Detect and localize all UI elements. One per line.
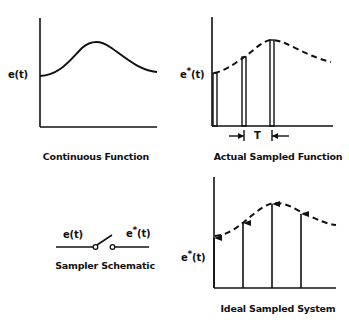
- ylabel-star: *: [188, 249, 193, 259]
- sampler-output-label: e*(t): [126, 228, 150, 239]
- ylabel-base: e: [180, 69, 187, 80]
- ideal-sampled-ylabel: e*(t): [181, 252, 205, 263]
- ideal-sampled-caption: Ideal Sampled System: [220, 303, 335, 314]
- sampler-caption: Sampler Schematic: [55, 260, 155, 271]
- ylabel-star: *: [187, 66, 192, 76]
- ylabel-arg: (t): [192, 252, 205, 263]
- continuous-curve: [40, 42, 157, 76]
- continuous-ylabel: e(t): [8, 69, 28, 80]
- ideal-sampled-plot: [214, 177, 336, 288]
- sampler-input-label: e(t): [63, 229, 83, 240]
- ylabel-base: e: [181, 252, 188, 263]
- period-label: T: [254, 130, 261, 141]
- switch-contact-right: [110, 245, 115, 250]
- actual-sampled-ylabel: e*(t): [180, 69, 204, 80]
- envelope-dashed-curve: [214, 40, 331, 73]
- switch-arm: [97, 235, 112, 245]
- sample-pulse-3: [270, 40, 274, 126]
- switch-contact-left: [93, 245, 98, 250]
- sample-pulse-2: [242, 57, 246, 126]
- envelope-dashed-curve: [215, 203, 336, 236]
- actual-sampled-caption: Actual Sampled Function: [214, 151, 343, 162]
- output-base: e: [126, 228, 133, 239]
- continuous-function-plot: [40, 18, 157, 127]
- actual-sampled-plot: [212, 17, 333, 141]
- continuous-caption: Continuous Function: [43, 151, 149, 162]
- sample-pulse-1: [213, 73, 217, 126]
- ylabel-arg: (t): [191, 69, 204, 80]
- output-arg: (t): [137, 228, 150, 239]
- output-star: *: [133, 225, 138, 235]
